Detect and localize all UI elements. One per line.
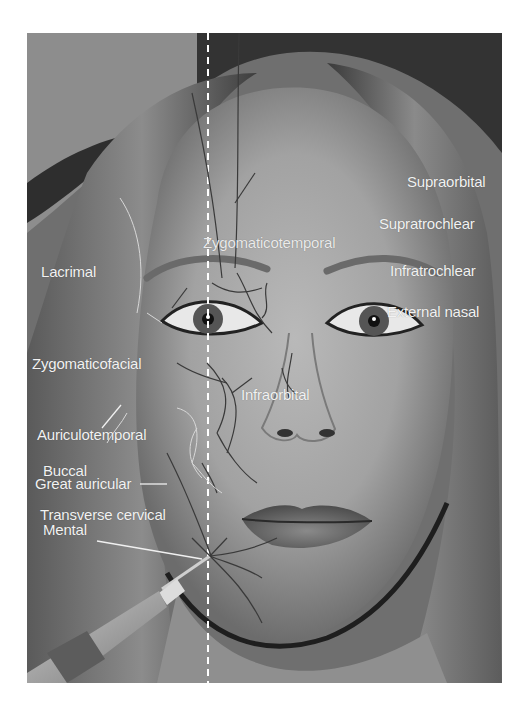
label-supraorbital: Supraorbital bbox=[407, 174, 485, 190]
label-supratrochlear: Supratrochlear bbox=[379, 216, 475, 232]
label-zygomaticotemporal: Zygomaticotemporal bbox=[203, 235, 335, 251]
label-great-auricular: Great auricular bbox=[35, 476, 131, 492]
face-photo: Supraorbital Supratrochlear Infratrochle… bbox=[27, 33, 502, 683]
label-lacrimal: Lacrimal bbox=[41, 264, 96, 280]
label-infraorbital: Infraorbital bbox=[241, 387, 309, 403]
label-external-nasal: External nasal bbox=[387, 304, 479, 320]
label-mental: Mental bbox=[43, 522, 87, 538]
label-auriculotemporal: Auriculotemporal bbox=[37, 427, 146, 443]
label-infratrochlear: Infratrochlear bbox=[390, 263, 476, 279]
label-zygomaticofacial: Zygomaticofacial bbox=[32, 356, 141, 372]
